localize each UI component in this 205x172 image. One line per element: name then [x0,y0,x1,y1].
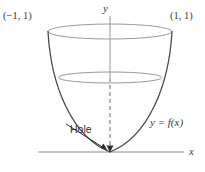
label-point-left: (−1, 1) [3,11,32,22]
label-function-curve: y = f(x) [150,117,183,128]
parabolic-bowl-figure: (−1, 1) (1, 1) y x y = f(x) Hole [0,0,205,172]
label-point-right: (1, 1) [170,11,193,22]
figure-canvas [0,0,205,172]
label-hole: Hole [70,124,92,135]
label-axis-y: y [103,3,108,14]
label-axis-x: x [189,146,194,157]
